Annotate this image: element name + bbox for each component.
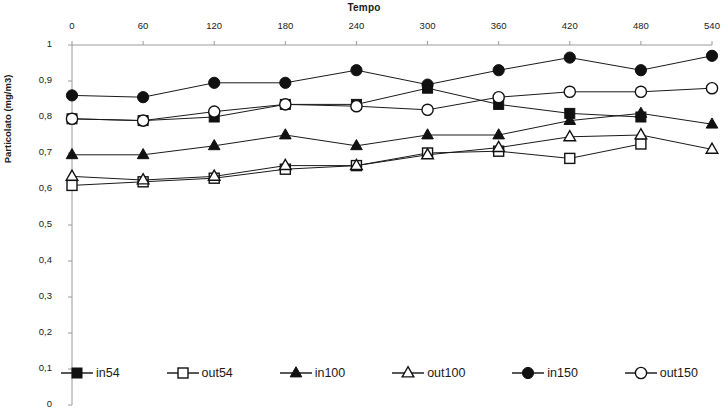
datapoint-in100-540 xyxy=(706,118,718,128)
datapoint-out150-240 xyxy=(351,101,362,112)
datapoint-in150-120 xyxy=(209,77,220,88)
datapoint-out54-420 xyxy=(565,153,575,163)
datapoint-out150-300 xyxy=(422,104,433,115)
datapoint-out100-420 xyxy=(564,131,576,141)
datapoint-out150-0 xyxy=(66,113,77,124)
legend-label-out54: out54 xyxy=(202,366,233,380)
datapoint-in150-0 xyxy=(66,90,77,101)
axis-lines xyxy=(68,41,712,405)
data-series-layer xyxy=(66,50,718,190)
datapoint-in150-540 xyxy=(706,50,717,61)
legend-item-out100[interactable]: out100 xyxy=(391,364,465,382)
datapoint-in150-480 xyxy=(635,65,646,76)
legend-marker-filled-circle-icon xyxy=(511,364,545,382)
datapoint-out100-480 xyxy=(635,129,647,139)
legend-marker-open-circle-icon xyxy=(624,364,658,382)
legend-label-in150: in150 xyxy=(547,366,578,380)
datapoint-in100-60 xyxy=(137,149,149,159)
datapoint-out150-420 xyxy=(564,86,575,97)
legend-marker-filled-triangle-icon xyxy=(279,364,313,382)
series-out100 xyxy=(66,129,718,184)
datapoint-out150-120 xyxy=(209,106,220,117)
datapoint-out100-0 xyxy=(66,170,78,180)
legend-label-out100: out100 xyxy=(427,366,465,380)
legend-label-in54: in54 xyxy=(96,366,120,380)
datapoint-in150-60 xyxy=(138,92,149,103)
datapoint-out150-540 xyxy=(706,83,717,94)
series-in150 xyxy=(66,50,717,103)
datapoint-in100-180 xyxy=(280,129,292,139)
legend-marker-open-square-icon xyxy=(166,364,200,382)
datapoint-in100-120 xyxy=(208,140,220,150)
legend-item-out54[interactable]: out54 xyxy=(166,364,233,382)
chart-legend: in54out54in100out100in150out150 xyxy=(60,364,728,382)
legend-label-out150: out150 xyxy=(660,366,698,380)
datapoint-in150-180 xyxy=(280,77,291,88)
chart-container: Tempo Particolato (mg/m3) 06012018024030… xyxy=(0,0,728,415)
datapoint-in100-300 xyxy=(422,129,434,139)
datapoint-out150-60 xyxy=(138,115,149,126)
datapoint-in150-300 xyxy=(422,79,433,90)
legend-item-in54[interactable]: in54 xyxy=(60,364,120,382)
datapoint-in100-0 xyxy=(66,149,78,159)
legend-item-out150[interactable]: out150 xyxy=(624,364,698,382)
datapoint-out54-480 xyxy=(636,139,646,149)
legend-item-in150[interactable]: in150 xyxy=(511,364,578,382)
datapoint-out150-360 xyxy=(493,92,504,103)
legend-marker-filled-square-icon xyxy=(60,364,94,382)
datapoint-in150-420 xyxy=(564,52,575,63)
datapoint-out150-180 xyxy=(280,99,291,110)
legend-item-in100[interactable]: in100 xyxy=(279,364,346,382)
legend-marker-open-triangle-icon xyxy=(391,364,425,382)
plot-area xyxy=(0,0,728,415)
datapoint-in150-360 xyxy=(493,65,504,76)
datapoint-in100-240 xyxy=(351,140,363,150)
datapoint-in150-240 xyxy=(351,65,362,76)
datapoint-out54-0 xyxy=(67,180,77,190)
series-in100 xyxy=(66,107,718,159)
datapoint-out150-480 xyxy=(635,86,646,97)
legend-label-in100: in100 xyxy=(315,366,346,380)
